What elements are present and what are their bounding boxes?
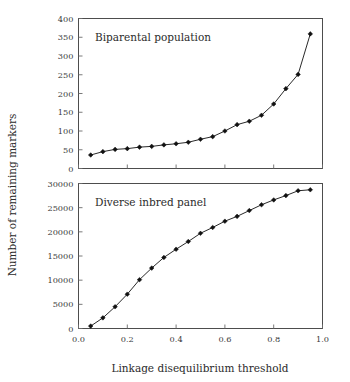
svg-text:300: 300 [58, 51, 74, 61]
y-axis-ticks-bottom: 050001000015000200002500030000 [47, 179, 82, 334]
svg-text:1.0: 1.0 [316, 334, 329, 344]
svg-text:100: 100 [58, 126, 74, 136]
chart-svg: Number of remaining markers Linkage dise… [0, 0, 350, 382]
svg-text:150: 150 [58, 107, 74, 117]
panel-title-top: Biparental population [95, 31, 211, 43]
series-markers-top [88, 32, 312, 158]
panel-biparental-population: 050100150200250300350400 Biparental popu… [58, 14, 323, 174]
x-axis-title: Linkage disequilibrium threshold [111, 362, 288, 374]
figure-container: Number of remaining markers Linkage dise… [0, 0, 350, 382]
svg-text:0.0: 0.0 [72, 334, 85, 344]
svg-text:350: 350 [58, 32, 74, 42]
series-markers-bottom [88, 187, 312, 328]
x-axis-tick-labels: 0.00.20.40.60.81.0 [72, 334, 329, 344]
y-axis-ticks-top: 050100150200250300350400 [58, 14, 83, 174]
panel-diverse-inbred-panel: 050001000015000200002500030000 0.00.20.4… [47, 179, 329, 344]
svg-text:15000: 15000 [47, 251, 73, 261]
svg-text:0.8: 0.8 [267, 334, 280, 344]
svg-text:250: 250 [58, 70, 74, 80]
panel-title-bottom: Diverse inbred panel [95, 196, 207, 208]
svg-text:0: 0 [68, 164, 73, 174]
svg-text:30000: 30000 [47, 179, 73, 189]
svg-text:50: 50 [63, 145, 73, 155]
x-axis-ticks-top [79, 165, 323, 169]
series-line-bottom [91, 190, 311, 326]
svg-text:200: 200 [58, 89, 74, 99]
svg-text:0.6: 0.6 [218, 334, 231, 344]
y-axis-title: Number of remaining markers [6, 114, 18, 277]
svg-text:20000: 20000 [47, 227, 73, 237]
svg-text:5000: 5000 [53, 299, 74, 309]
x-axis-ticks-bottom [79, 325, 323, 329]
svg-text:0.2: 0.2 [121, 334, 134, 344]
svg-text:25000: 25000 [47, 203, 73, 213]
svg-text:10000: 10000 [47, 275, 73, 285]
svg-text:400: 400 [58, 14, 74, 24]
svg-text:0: 0 [68, 324, 73, 334]
svg-text:0.4: 0.4 [170, 334, 183, 344]
